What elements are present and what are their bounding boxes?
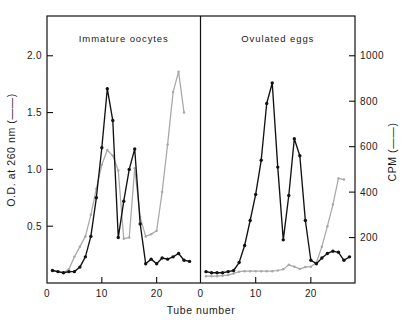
x-tick-label: 0 [44, 288, 50, 299]
data-point-cpm [343, 178, 346, 181]
data-point-od [160, 256, 163, 259]
data-point-cpm [205, 275, 208, 278]
data-point-cpm [112, 155, 115, 158]
data-point-od [243, 244, 246, 247]
data-point-cpm [73, 256, 76, 259]
data-point-cpm [260, 270, 263, 273]
data-point-cpm [161, 191, 164, 194]
data-point-cpm [249, 270, 252, 273]
data-point-cpm [310, 265, 313, 268]
y-tick-label-left: 1.0 [27, 164, 42, 175]
data-point-od [215, 271, 218, 274]
data-point-od [89, 235, 92, 238]
data-point-od [276, 165, 279, 168]
data-point-cpm [172, 91, 175, 94]
data-point-cpm [128, 236, 131, 239]
data-point-cpm [288, 264, 291, 267]
y-axis-label-right: CPM (——) [386, 122, 398, 181]
data-point-cpm [321, 245, 324, 248]
data-point-od [51, 269, 54, 272]
data-point-cpm [183, 111, 186, 114]
data-point-od [309, 259, 312, 262]
data-point-od [326, 252, 329, 255]
data-point-cpm [332, 203, 335, 206]
y-tick-label-right: 400 [360, 187, 378, 198]
data-point-od [298, 154, 301, 157]
data-point-od [117, 236, 120, 239]
data-point-cpm [227, 274, 230, 277]
data-point-cpm [299, 268, 302, 271]
data-point-cpm [254, 270, 257, 273]
x-tick-label: 0 [198, 288, 204, 299]
data-point-cpm [84, 235, 87, 238]
data-point-od [248, 219, 251, 222]
chart-figure: 0.51.01.52.020040060080010000102001020 I… [0, 0, 409, 325]
data-point-od [78, 265, 81, 268]
data-point-od [232, 269, 235, 272]
data-point-od [188, 260, 191, 263]
data-point-od [260, 159, 263, 162]
y-tick-label-left: 1.5 [27, 107, 42, 118]
data-point-cpm [155, 229, 158, 232]
data-point-od [128, 168, 131, 171]
data-point-od [67, 270, 70, 273]
data-point-od [56, 270, 59, 273]
data-point-od [84, 255, 87, 258]
chart-background [0, 0, 409, 325]
data-point-od [100, 146, 103, 149]
data-point-cpm [79, 245, 82, 248]
data-point-od [204, 270, 207, 273]
data-point-od [177, 252, 180, 255]
data-point-cpm [232, 272, 235, 275]
data-point-od [348, 255, 351, 258]
data-point-od [237, 261, 240, 264]
x-tick-label: 20 [151, 288, 163, 299]
y-tick-label-right: 600 [360, 141, 378, 152]
data-point-od [149, 257, 152, 260]
y-tick-label-left: 0.5 [27, 221, 42, 232]
data-point-cpm [304, 266, 307, 269]
data-point-od [293, 137, 296, 140]
data-point-od [95, 196, 98, 199]
data-point-cpm [144, 235, 147, 238]
data-point-od [320, 256, 323, 259]
data-point-cpm [210, 275, 213, 278]
x-tick-label: 20 [305, 288, 317, 299]
y-tick-label-right: 200 [360, 232, 378, 243]
data-point-od [155, 262, 158, 265]
data-point-od [133, 147, 136, 150]
data-point-cpm [177, 70, 180, 73]
data-point-cpm [326, 225, 329, 228]
panel-title: Immature oocytes [79, 33, 169, 44]
data-point-od [171, 255, 174, 258]
data-point-od [111, 119, 114, 122]
data-point-od [265, 102, 268, 105]
data-point-od [62, 271, 65, 274]
x-axis-label: Tube number [167, 304, 236, 316]
data-point-od [122, 200, 125, 203]
data-point-od [73, 270, 76, 273]
data-point-cpm [101, 164, 104, 167]
data-point-od [337, 251, 340, 254]
x-tick-label: 10 [96, 288, 108, 299]
data-point-od [282, 238, 285, 241]
data-point-od [210, 271, 213, 274]
data-point-od [144, 262, 147, 265]
data-point-cpm [265, 270, 268, 273]
y-tick-label-right: 800 [360, 96, 378, 107]
data-point-od [287, 194, 290, 197]
data-point-cpm [238, 270, 241, 273]
data-point-od [271, 81, 274, 84]
sucrose-gradient-profile-chart: 0.51.01.52.020040060080010000102001020 I… [0, 0, 409, 325]
data-point-od [254, 193, 257, 196]
data-point-od [342, 259, 345, 262]
data-point-od [226, 270, 229, 273]
y-tick-label-right: 1000 [360, 50, 384, 61]
data-point-cpm [117, 169, 120, 172]
data-point-cpm [166, 143, 169, 146]
data-point-cpm [221, 274, 224, 277]
data-point-cpm [243, 270, 246, 273]
data-point-cpm [90, 214, 93, 217]
data-point-cpm [150, 233, 153, 236]
data-point-cpm [271, 270, 274, 273]
